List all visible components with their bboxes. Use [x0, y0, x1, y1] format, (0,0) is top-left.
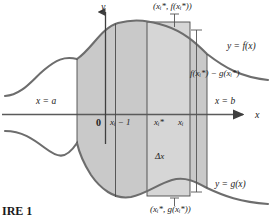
figure-container: y x 0 (xᵢ*, f(xᵢ*)) (xᵢ*, g(xᵢ*)) y = f(…: [0, 0, 273, 220]
right-bound-label: x = b: [215, 97, 235, 107]
upper-curve-label: y = f(x): [227, 42, 256, 52]
y-axis-label: y: [101, 2, 105, 12]
delta-x-label: Δx: [155, 152, 164, 161]
figure-caption: IRE 1: [2, 205, 32, 217]
x-axis-label: x: [255, 110, 259, 120]
top-point-label: (xᵢ*, f(xᵢ*)): [153, 2, 192, 11]
left-bound-label: x = a: [36, 97, 56, 107]
approximating-rectangle: [147, 22, 190, 196]
tick-label-x-i: xᵢ: [178, 118, 183, 127]
bottom-point-label: (xᵢ*, g(xᵢ*)): [150, 205, 191, 214]
lower-curve-label: y = g(x): [215, 180, 246, 190]
tick-label-x-i-star: xᵢ*: [154, 118, 164, 127]
tick-label-x-i-minus-1: xᵢ − 1: [110, 118, 131, 127]
height-expression-label: f(xᵢ*) − g(xᵢ*): [190, 69, 239, 78]
origin-label: 0: [96, 118, 101, 128]
